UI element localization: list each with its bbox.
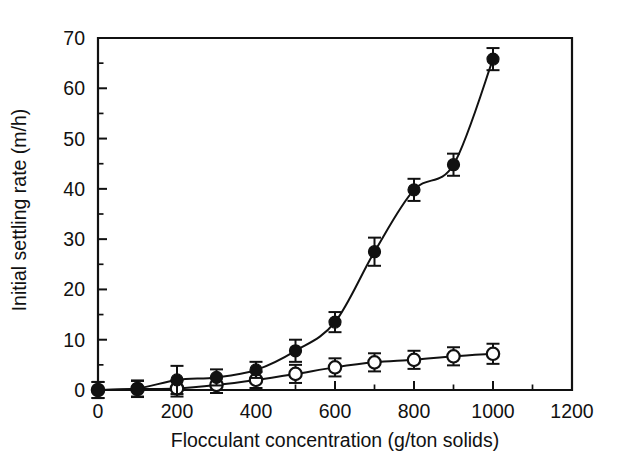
y-tick-label: 30 [63,228,85,250]
y-tick-label: 50 [63,128,85,150]
x-tick-label: 600 [319,400,352,422]
x-tick-label: 800 [398,400,431,422]
series-filled-circles-points [92,48,500,398]
data-point-marker [448,159,460,171]
x-tick-label: 1000 [471,400,515,422]
data-point-marker [368,356,380,368]
data-point-marker [92,384,104,396]
y-tick-label: 40 [63,178,85,200]
data-point-marker [329,361,341,373]
data-point-marker [250,364,262,376]
x-axis-title: Flocculant concentration (g/ton solids) [171,429,499,451]
y-axis-title: Initial settling rate (m/h) [8,109,30,312]
y-tick-label: 70 [63,27,85,49]
data-point-marker [211,371,223,383]
data-point-marker [487,53,499,65]
x-tick-label: 400 [240,400,273,422]
x-tick-label: 1200 [550,400,594,422]
y-tick-label: 20 [63,278,85,300]
x-tick-label: 0 [93,400,104,422]
y-tick-label: 10 [63,329,85,351]
figure-container: 020040060080010001200 010203040506070 Fl… [0,0,627,457]
data-point-marker [369,246,381,258]
y-tick-label: 0 [74,379,85,401]
y-axis-tick-labels: 010203040506070 [63,27,85,401]
y-tick-label: 60 [63,77,85,99]
data-point-marker [329,316,341,328]
data-point-marker [447,350,459,362]
data-point-marker [408,184,420,196]
data-point-marker [487,348,499,360]
plot-frame [98,38,572,390]
x-tick-label: 200 [161,400,194,422]
data-point-marker [171,374,183,386]
data-point-marker [290,345,302,357]
data-point-marker [289,368,301,380]
x-axis-tick-labels: 020040060080010001200 [93,400,594,422]
settling-rate-scatter-chart: 020040060080010001200 010203040506070 Fl… [0,0,627,457]
y-axis-ticks [98,38,107,390]
data-point-marker [408,354,420,366]
data-point-marker [132,382,144,394]
